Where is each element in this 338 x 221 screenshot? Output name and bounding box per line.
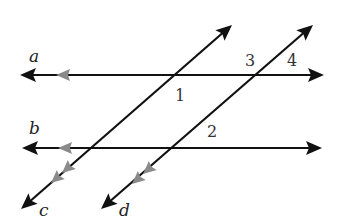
angle-label-4: 4 — [287, 51, 297, 70]
line-d — [96, 20, 317, 215]
line-a — [20, 68, 324, 82]
line-label-a: a — [29, 46, 39, 66]
parallel-lines-diagram: a b c d 1 2 3 4 — [0, 0, 338, 221]
angle-label-3: 3 — [245, 51, 255, 70]
parallel-marker-icon — [58, 142, 72, 154]
line-c — [16, 20, 236, 215]
angle-label-2: 2 — [207, 122, 217, 141]
line-label-b: b — [29, 118, 40, 138]
line-label-c: c — [39, 200, 49, 220]
line-label-d: d — [119, 200, 130, 220]
parallel-marker-icon — [56, 69, 70, 81]
angle-label-1: 1 — [175, 86, 185, 105]
